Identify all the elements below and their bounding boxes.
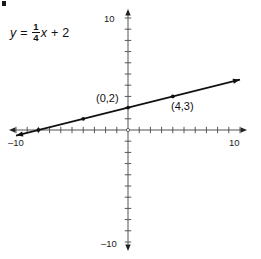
graph-figure: y = 1 4 x + 2 10 –10 –10 10 <box>0 0 261 259</box>
y-axis-arrow-up-icon <box>125 9 130 16</box>
y-axis-max-label: 10 <box>104 13 115 24</box>
origin-marker <box>126 128 129 131</box>
series-arrow-start-icon <box>16 131 23 136</box>
data-point-dot <box>37 128 41 132</box>
x-axis-arrow-left-icon <box>9 127 16 132</box>
data-point-dot <box>81 117 85 121</box>
y-axis-min-label: –10 <box>101 238 117 249</box>
series-arrow-end-icon <box>233 79 240 84</box>
coordinate-plane <box>0 0 261 259</box>
point-label-0-2: (0,2) <box>96 92 119 104</box>
point-label-4-3: (4,3) <box>171 100 194 112</box>
y-axis-arrow-down-icon <box>125 245 130 252</box>
x-axis-max-label: 10 <box>229 137 240 148</box>
data-point-dot <box>171 95 175 99</box>
x-axis-min-label: –10 <box>8 137 24 148</box>
x-axis-arrow-right-icon <box>241 127 248 132</box>
axes-group <box>9 9 247 251</box>
data-point-dot <box>126 106 130 110</box>
